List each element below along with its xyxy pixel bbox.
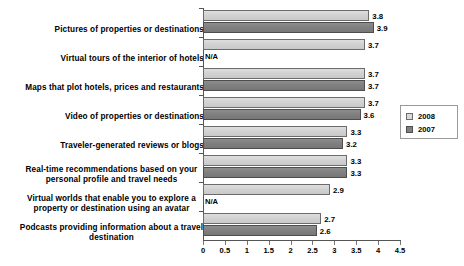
- x-axis-tick-label: 2.5: [307, 246, 318, 255]
- x-axis-tick-label: 3: [332, 246, 336, 255]
- bar-2007-7: [203, 225, 317, 236]
- x-axis-tick-label: 1: [245, 246, 249, 255]
- x-axis-tick: [203, 241, 204, 245]
- y-axis-tick: [199, 153, 203, 154]
- legend-swatch-2007-icon: [406, 126, 413, 133]
- bar-value-na: N/A: [205, 197, 218, 206]
- bar-2008-3: [203, 97, 365, 108]
- x-axis-tick: [269, 241, 270, 245]
- bar-value-2008-6: 2.9: [333, 186, 344, 195]
- category-label-7: Podcasts providing information about a t…: [19, 223, 204, 243]
- category-label-4-line-0: Traveler-generated reviews or blogs: [60, 141, 204, 150]
- category-label-0-line-0: Pictures of properties or destinations: [55, 25, 204, 34]
- y-axis-tick: [199, 66, 203, 67]
- x-axis-tick: [356, 241, 357, 245]
- y-axis-tick: [199, 124, 203, 125]
- y-axis-tick: [199, 182, 203, 183]
- x-axis-tick-label: 0: [201, 246, 205, 255]
- bar-2007-0: [203, 22, 374, 33]
- category-label-1-line-0: Virtual tours of the interior of hotels: [61, 54, 204, 63]
- x-axis-tick: [291, 241, 292, 245]
- x-axis-tick-label: 3.5: [351, 246, 362, 255]
- bar-value-2008-4: 3.3: [350, 128, 361, 137]
- x-axis-tick-label: 0.5: [220, 246, 231, 255]
- bar-2007-2: [203, 80, 365, 91]
- x-axis-tick-label: 4: [376, 246, 380, 255]
- bar-2008-6: [203, 184, 330, 195]
- legend: 2008 2007: [400, 105, 458, 139]
- legend-label-2007: 2007: [418, 125, 435, 134]
- category-label-3-line-0: Video of properties or destinations: [65, 112, 204, 121]
- bar-2008-2: [203, 68, 365, 79]
- category-label-0: Pictures of properties or destinations: [19, 25, 204, 35]
- x-axis-tick: [378, 241, 379, 245]
- category-label-5: Real-time recommendations based on your …: [19, 165, 204, 185]
- bar-value-2008-7: 2.7: [324, 215, 335, 224]
- bar-value-na: N/A: [205, 52, 218, 61]
- x-axis-tick: [312, 241, 313, 245]
- bar-value-2007-5: 3.3: [350, 169, 361, 178]
- x-axis-tick: [400, 241, 401, 245]
- bar-value-2007-3: 3.6: [364, 111, 375, 120]
- legend-entry-2007: 2007: [406, 123, 457, 136]
- x-axis-tick: [225, 241, 226, 245]
- category-label-7-line-1: destination: [19, 233, 204, 243]
- bar-value-2007-0: 3.9: [377, 24, 388, 33]
- y-axis-tick: [199, 8, 203, 9]
- bar-value-2008-0: 3.8: [372, 12, 383, 21]
- category-label-6-line-0: Virtual worlds that enable you to explor…: [19, 194, 204, 204]
- bar-2008-0: [203, 10, 369, 21]
- bar-value-2007-7: 2.6: [320, 227, 331, 236]
- category-label-4: Traveler-generated reviews or blogs: [19, 141, 204, 151]
- category-label-5-line-1: personal profile and travel needs: [19, 175, 204, 185]
- bar-value-2008-5: 3.3: [350, 157, 361, 166]
- category-label-6-line-1: property or destination using an avatar: [19, 204, 204, 214]
- legend-label-2008: 2008: [418, 112, 435, 121]
- bar-value-2008-1: 3.7: [368, 41, 379, 50]
- x-axis-line: [203, 240, 401, 241]
- bar-2008-7: [203, 213, 321, 224]
- bar-2008-5: [203, 155, 347, 166]
- x-axis-tick-label: 4.5: [395, 246, 406, 255]
- bar-chart: Pictures of properties or destinations V…: [0, 0, 464, 266]
- x-axis-tick-label: 2: [288, 246, 292, 255]
- y-axis-tick: [199, 37, 203, 38]
- category-label-1: Virtual tours of the interior of hotels: [19, 54, 204, 64]
- x-axis-tick: [247, 241, 248, 245]
- x-axis-tick: [334, 241, 335, 245]
- category-label-2: Maps that plot hotels, prices and restau…: [19, 83, 204, 93]
- y-axis-tick: [199, 211, 203, 212]
- bar-2008-1: [203, 39, 365, 50]
- legend-swatch-2008-icon: [406, 113, 413, 120]
- bar-2007-3: [203, 109, 361, 120]
- x-axis-tick-label: 1.5: [263, 246, 274, 255]
- bar-value-2007-4: 3.2: [346, 140, 357, 149]
- category-label-3: Video of properties or destinations: [19, 112, 204, 122]
- category-label-6: Virtual worlds that enable you to explor…: [19, 194, 204, 214]
- bar-value-2008-3: 3.7: [368, 99, 379, 108]
- category-label-5-line-0: Real-time recommendations based on your: [19, 165, 204, 175]
- bar-2008-4: [203, 126, 347, 137]
- y-axis-tick: [199, 95, 203, 96]
- bar-value-2008-2: 3.7: [368, 70, 379, 79]
- category-label-7-line-0: Podcasts providing information about a t…: [19, 223, 204, 233]
- bar-value-2007-2: 3.7: [368, 82, 379, 91]
- category-label-2-line-0: Maps that plot hotels, prices and restau…: [25, 83, 204, 92]
- legend-entry-2008: 2008: [406, 110, 457, 123]
- bar-2007-5: [203, 167, 347, 178]
- bar-2007-4: [203, 138, 343, 149]
